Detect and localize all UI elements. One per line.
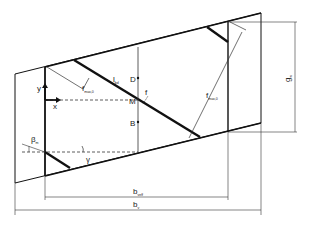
beta-line [22, 144, 45, 152]
fmax-tick-right [230, 22, 246, 30]
label-fmax-left: fmax,0 [82, 84, 94, 94]
label-gamma: γ [86, 155, 90, 164]
label-lbd: lbd [113, 75, 119, 85]
main-diagonal [74, 60, 200, 137]
label-bveff: bveff [133, 187, 143, 197]
top-right-strut [207, 27, 228, 42]
label-bv: bv [133, 200, 139, 210]
bottom-left-strut [45, 152, 70, 168]
label-M: M [129, 97, 136, 106]
point-D [137, 77, 139, 79]
gamma-arc [82, 146, 83, 152]
label-y: y [37, 84, 41, 93]
fmax-line-right [189, 32, 242, 138]
label-gw: gw [283, 75, 293, 82]
label-x: x [53, 102, 57, 111]
point-B [137, 121, 139, 123]
bottom-edge [45, 123, 261, 176]
y-arrowhead-icon [42, 83, 48, 88]
label-f: f [145, 88, 148, 97]
structural-diagram: lbd D M B f fmax,0 fmax,0 y x βm γ gw bv… [0, 0, 313, 225]
label-D: D [130, 75, 136, 84]
label-B: B [130, 119, 135, 128]
label-beta: βm [31, 135, 39, 145]
fmax-line-left [47, 67, 83, 89]
